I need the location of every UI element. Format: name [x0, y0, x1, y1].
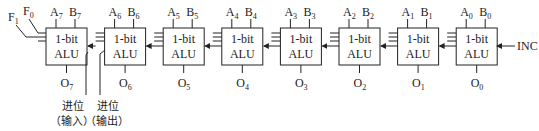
a-input-label: A3 [284, 5, 297, 21]
alu-label-line2: ALU [171, 47, 196, 61]
output-label: O0 [471, 76, 484, 92]
b-input-label: B2 [362, 5, 374, 21]
carry-out-label-line2: （输出） [85, 114, 129, 128]
b-input-label: B5 [186, 5, 198, 21]
alu-stage-0: 1-bitALUA0B0O0 [440, 5, 498, 92]
alu-label-line1: 1-bit [407, 32, 430, 46]
alu-stage-2: 1-bitALUA2B2O2 [322, 5, 380, 92]
alu-label-line1: 1-bit [231, 32, 254, 46]
a-input-label: A2 [343, 5, 356, 21]
alu-stage-1: 1-bitALUA1B1O1 [381, 5, 439, 92]
a-input-label: A4 [226, 5, 239, 21]
alu-label-line2: ALU [230, 47, 255, 61]
alu-label-line2: ALU [54, 47, 79, 61]
a-input-label: A6 [109, 5, 122, 21]
b-input-label: B1 [421, 5, 433, 21]
b-input-label: B7 [69, 5, 81, 21]
alu-label-line1: 1-bit [172, 32, 195, 46]
a-input-label: A7 [50, 5, 63, 21]
alu-stage-7: 1-bitALUA7B7O7 [46, 5, 87, 92]
f0-wire [29, 19, 46, 33]
carry-in-label-line1: 进位 [62, 99, 84, 113]
alu-label-line1: 1-bit [465, 32, 488, 46]
f1-label: F1 [8, 10, 19, 26]
alu-label-line1: 1-bit [290, 32, 313, 46]
alu-stage-4: 1-bitALUA4B4O4 [205, 5, 263, 92]
alu-stage-6: 1-bitALUA6B6O6 [96, 5, 146, 92]
alu-stage-5: 1-bitALUA5B5O5 [147, 5, 205, 92]
alu-label-line2: ALU [113, 47, 138, 61]
alu-label-line1: 1-bit [114, 32, 137, 46]
output-label: O1 [412, 76, 425, 92]
b-input-label: B6 [128, 5, 140, 21]
b-input-label: B3 [303, 5, 315, 21]
f1-wire [16, 25, 46, 37]
alu-label-line1: 1-bit [348, 32, 371, 46]
alu-label-line2: ALU [347, 47, 372, 61]
f0-label: F0 [23, 4, 34, 20]
output-label: O5 [178, 76, 191, 92]
b-input-label: B0 [479, 5, 491, 21]
output-label: O7 [61, 76, 74, 92]
inc-label: INC [517, 39, 538, 53]
output-label: O2 [354, 76, 367, 92]
alu-label-line2: ALU [406, 47, 431, 61]
a-input-label: A5 [167, 5, 180, 21]
alu-label-line1: 1-bit [55, 32, 78, 46]
alu-label-line2: ALU [289, 47, 314, 61]
output-label: O4 [236, 76, 249, 92]
alu-stage-3: 1-bitALUA3B3O3 [264, 5, 322, 92]
b-input-label: B4 [245, 5, 257, 21]
alu-diagram: 1-bitALUA7B7O71-bitALUA6B6O61-bitALUA5B5… [0, 0, 539, 131]
a-input-label: A0 [460, 5, 473, 21]
output-label: O6 [119, 76, 132, 92]
alu-label-line2: ALU [464, 47, 489, 61]
carry-out-label-line1: 进位 [97, 99, 119, 113]
output-label: O3 [295, 76, 308, 92]
a-input-label: A1 [402, 5, 415, 21]
